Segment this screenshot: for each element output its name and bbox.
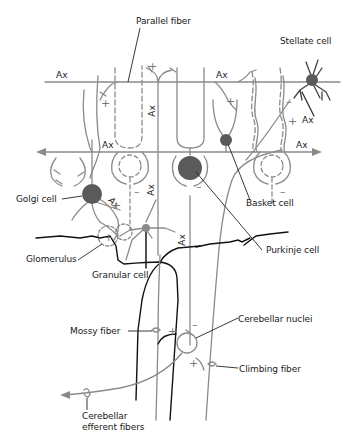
cerebellar-nuclei-circle: [177, 333, 197, 353]
purkinje-cell-soma: [178, 156, 202, 180]
sign-plus-climbing: +: [189, 358, 198, 369]
granular-layer-boundary-center: [160, 246, 200, 262]
climbing-fiber-wavy-2b: [283, 76, 286, 152]
basket-ending-far-left: [51, 158, 86, 186]
sign-plus-golgi: +: [112, 200, 121, 211]
basket-cell-soma: [220, 134, 232, 146]
label-granular-cell: Granular cell: [92, 270, 148, 280]
label-efferent-line2: efferent fibers: [82, 422, 144, 432]
label-efferent-line1: Cerebellar: [82, 411, 127, 421]
granular-cell-soma: [142, 224, 150, 232]
golgi-cell-soma: [82, 184, 102, 204]
sign-plus-glomerulus: +: [104, 232, 113, 243]
axon-label-top-left: Ax: [56, 70, 67, 80]
label-stellate-cell: Stellate cell: [280, 36, 331, 46]
climbing-fiber-long-2: [246, 100, 290, 160]
granular-layer-boundary-mid: [196, 238, 250, 247]
stellate-axon-pointer: [302, 92, 314, 116]
sign-plus-left: +: [101, 98, 110, 109]
granular-layer-boundary-right: [244, 232, 288, 245]
ghost-soma-left: [119, 155, 141, 177]
sign-minus-purkinje: –: [196, 181, 202, 192]
sign-minus-stellate: –: [286, 96, 292, 107]
label-basket-cell: Basket cell: [246, 198, 294, 208]
sign-minus-nuclei: –: [192, 319, 198, 330]
label-glomerulus: Glomerulus: [26, 254, 77, 264]
label-parallel-fiber: Parallel fiber: [136, 16, 191, 26]
sign-minus-ghost-right: –: [280, 186, 286, 197]
sign-plus-mossy: +: [168, 326, 177, 337]
stellate-cell-soma: [306, 74, 318, 86]
mossy-fiber-marker: [152, 328, 160, 332]
fiber-left-1: [83, 90, 92, 152]
axon-label-vertical-purkinje: Ax: [177, 234, 187, 245]
cerebellar-circuit-diagram: [0, 0, 347, 447]
label-mossy-fiber: Mossy fiber: [70, 326, 120, 336]
label-golgi-cell: Golgi cell: [16, 194, 57, 204]
arrowhead-left: [36, 148, 46, 156]
mossy-fiber: [156, 255, 160, 420]
leader-cerebellar-nuclei: [196, 318, 238, 338]
leader-climbing-fiber: [216, 366, 238, 368]
sign-plus-top-center: +: [148, 61, 157, 72]
axon-label-right-lower: Ax: [296, 140, 307, 150]
axon-label-vertical-left: Ax: [146, 184, 156, 195]
leader-parallel-fiber: [128, 28, 140, 82]
axon-label-stellate: Ax: [302, 115, 313, 125]
axon-label-vertical-center: Ax: [147, 105, 157, 116]
leader-glomerulus: [78, 244, 102, 260]
climbing-fiber-wavy-1b: [255, 78, 258, 152]
efferent-fiber: [65, 353, 182, 395]
basket-cell-dendrite-left: [213, 100, 225, 138]
granular-cell-dendrites: [120, 228, 175, 260]
arrowhead-right: [312, 148, 322, 156]
leader-purkinje-cell: [196, 172, 262, 250]
label-purkinje-cell: Purkinje cell: [266, 245, 319, 255]
axon-label-left-lower: Ax: [102, 140, 113, 150]
efferent-arrowhead: [60, 391, 70, 399]
leader-golgi-cell: [62, 196, 82, 199]
sign-minus-ghost-left: –: [134, 186, 140, 197]
purkinje-dendrite: [177, 68, 204, 148]
sign-plus-stellate: +: [288, 116, 297, 127]
sign-plus-basket: +: [226, 96, 235, 107]
climbing-fiber-long: [206, 150, 282, 420]
granular-cell-axon-up: [146, 200, 156, 222]
label-climbing-fiber: Climbing fiber: [239, 364, 301, 374]
ghost-soma-right: [261, 155, 283, 177]
axon-label-top-right: Ax: [216, 70, 227, 80]
label-cerebellar-nuclei: Cerebellar nuclei: [238, 314, 312, 324]
